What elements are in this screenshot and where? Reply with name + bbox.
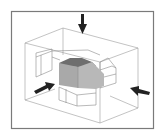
bottom-plane-projection — [59, 87, 77, 106]
top-plane-projection — [52, 50, 100, 55]
glass-box-bottom-edges — [25, 100, 138, 123]
front-arrow-shape — [34, 82, 55, 94]
glass-box-top-face — [25, 28, 138, 62]
left-plane-projection — [36, 51, 52, 77]
right-plane-projection-detail — [100, 66, 116, 70]
top-plane-projection-2 — [52, 57, 60, 60]
object-front-face — [59, 63, 78, 88]
side-arrow-shape — [130, 86, 150, 96]
glass-box-bottom-back-right — [110, 96, 138, 108]
projection-diagram — [0, 0, 161, 135]
bottom-plane-projection-detail — [77, 93, 96, 106]
top-view-arrow — [78, 14, 87, 34]
side-view-arrow — [130, 86, 150, 96]
solid-object — [59, 58, 104, 89]
front-view-arrow — [34, 82, 55, 94]
